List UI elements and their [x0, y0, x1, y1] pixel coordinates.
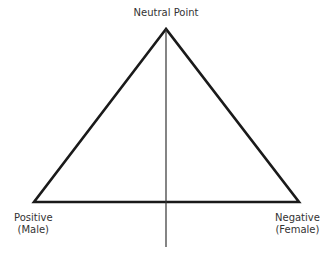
female-text: (Female) [275, 224, 320, 236]
neutral-point-label: Neutral Point [134, 7, 199, 19]
negative-female-label: Negative (Female) [275, 212, 320, 236]
male-text: (Male) [14, 224, 53, 236]
positive-text: Positive [14, 212, 53, 224]
negative-text: Negative [275, 212, 320, 224]
neutral-point-text: Neutral Point [134, 7, 199, 19]
positive-male-label: Positive (Male) [14, 212, 53, 236]
